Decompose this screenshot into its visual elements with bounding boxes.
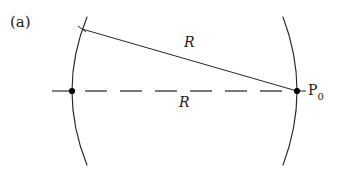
diagram-canvas [0, 0, 340, 172]
point-p0-subscript: 0 [317, 91, 323, 102]
optical-axis-length-label: R [179, 95, 190, 109]
point-p0-label: P0 [308, 83, 324, 101]
panel-label: (a) [10, 15, 31, 30]
point-p0-base: P [308, 82, 317, 98]
left-vertex-marker [69, 88, 75, 94]
skew-ray-length-label: R [184, 35, 195, 49]
figure-panel-a: (a) R R P0 [0, 0, 340, 172]
right-vertex-marker [294, 88, 300, 94]
